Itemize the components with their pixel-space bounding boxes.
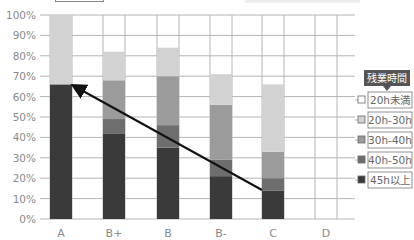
- legend-swatch: [358, 136, 365, 143]
- x-tick-label: B: [164, 227, 172, 240]
- y-tick-label: 70%: [13, 70, 36, 82]
- bar-segment: [157, 76, 179, 125]
- bar-A: [50, 15, 72, 219]
- legend-item-label: 30h-40h: [368, 134, 412, 146]
- bar-segment: [210, 74, 232, 105]
- y-tick-label: 60%: [13, 91, 36, 103]
- legend-item-label: 20h未満: [370, 94, 411, 106]
- y-tick-label: 90%: [13, 29, 36, 41]
- stacked-bar-chart: 0%10%20%30%40%50%60%70%80%90%100% AB+BB-…: [0, 0, 414, 240]
- y-tick-label: 40%: [13, 131, 36, 143]
- bar-B+: [103, 52, 125, 219]
- y-tick-label: 80%: [13, 50, 36, 62]
- x-tick-label: D: [322, 227, 330, 240]
- x-tick-label: B+: [106, 227, 123, 240]
- legend: 残業時間20h未満20h-30h30h-40h40h-50h45h以上: [355, 70, 412, 188]
- bar-segment: [262, 152, 284, 179]
- x-axis-labels: AB+BB-CD: [57, 227, 330, 240]
- y-tick-label: 20%: [13, 172, 36, 184]
- y-tick-label: 10%: [13, 193, 36, 205]
- legend-item-label: 40h-50h: [368, 154, 412, 166]
- legend-swatch: [358, 176, 365, 183]
- y-tick-label: 30%: [13, 152, 36, 164]
- bar-segment: [103, 119, 125, 133]
- bar-segment: [103, 52, 125, 81]
- gridlines: [40, 15, 355, 219]
- bar-C: [262, 84, 284, 219]
- bar-segment: [210, 105, 232, 160]
- y-axis-ticks: 0%10%20%30%40%50%60%70%80%90%100%: [6, 9, 36, 225]
- y-tick-label: 100%: [6, 9, 36, 21]
- x-tick-label: B-: [215, 227, 227, 240]
- bar-segment: [262, 178, 284, 190]
- bar-segment: [103, 133, 125, 219]
- bar-segment: [50, 15, 72, 84]
- bar-segment: [262, 190, 284, 219]
- bar-segment: [262, 84, 284, 151]
- legend-title: 残業時間: [367, 72, 407, 84]
- bar-B-: [210, 74, 232, 219]
- bar-segment: [157, 148, 179, 219]
- legend-item-label: 45h以上: [370, 174, 410, 186]
- y-tick-label: 0%: [19, 213, 36, 225]
- legend-pointer: [383, 86, 391, 91]
- legend-swatch: [358, 156, 365, 163]
- bar-segment: [157, 48, 179, 77]
- bar-segment: [210, 176, 232, 219]
- legend-swatch: [358, 116, 365, 123]
- legend-item-label: 20h-30h: [368, 114, 412, 126]
- x-tick-label: C: [269, 227, 277, 240]
- y-tick-label: 50%: [13, 111, 36, 123]
- legend-swatch: [358, 96, 365, 103]
- bar-segment: [157, 125, 179, 147]
- bar-segment: [50, 84, 72, 219]
- x-tick-label: A: [57, 227, 65, 240]
